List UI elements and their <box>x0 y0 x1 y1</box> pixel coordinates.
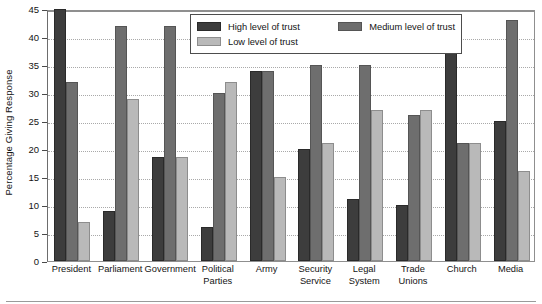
bar <box>396 205 408 261</box>
x-axis-label: Media <box>486 264 535 276</box>
legend-label-medium: Medium level of trust <box>369 22 455 32</box>
x-axis-label-line: System <box>340 276 389 288</box>
x-axis-label: Army <box>242 264 291 276</box>
y-tick-label: 45 <box>28 5 39 15</box>
legend-item-high: High level of trust <box>197 19 338 34</box>
bar <box>54 9 66 261</box>
y-tick-label: 5 <box>34 229 39 239</box>
bar <box>250 71 262 261</box>
y-tick-label: 25 <box>28 117 39 127</box>
x-axis-label-line: Parliament <box>96 264 145 276</box>
legend-item-low: Low level of trust <box>197 34 344 49</box>
x-axis-label: PoliticalParties <box>193 264 242 287</box>
bar <box>213 93 225 261</box>
y-tick-label: 30 <box>28 89 39 99</box>
bar <box>457 143 469 261</box>
y-tick-label: 35 <box>28 61 39 71</box>
legend: High level of trust Medium level of trus… <box>190 14 462 54</box>
bar <box>225 82 237 261</box>
bar <box>322 143 334 261</box>
x-axis-label-line: Government <box>145 264 194 276</box>
bar <box>469 143 481 261</box>
bar <box>66 82 78 261</box>
bar <box>420 110 432 261</box>
x-axis-label: Parliament <box>96 264 145 276</box>
y-tick-label: 10 <box>28 201 39 211</box>
bar <box>201 227 213 261</box>
x-axis-labels: PresidentParliamentGovernmentPoliticalPa… <box>47 264 535 304</box>
y-tick-label: 15 <box>28 173 39 183</box>
x-axis-label: Government <box>145 264 194 276</box>
bottom-rule <box>6 301 536 302</box>
x-axis-label-line: Political <box>193 264 242 276</box>
y-tick-label: 20 <box>28 145 39 155</box>
x-axis-label: President <box>47 264 96 276</box>
bar <box>310 65 322 261</box>
bar <box>176 157 188 261</box>
bar <box>494 121 506 261</box>
x-axis-label-line: President <box>47 264 96 276</box>
bar <box>347 199 359 261</box>
legend-label-low: Low level of trust <box>228 37 298 47</box>
y-tick-label: 0 <box>34 257 39 267</box>
x-axis-label-line: Church <box>437 264 486 276</box>
bar <box>78 222 90 261</box>
bar <box>164 26 176 261</box>
bar-group <box>48 11 97 261</box>
x-axis-label-line: Service <box>291 276 340 288</box>
bar <box>518 171 530 261</box>
bar <box>298 149 310 261</box>
bar <box>152 157 164 261</box>
bar <box>115 26 127 261</box>
bar-group <box>487 11 536 261</box>
bar <box>103 211 115 261</box>
legend-item-medium: Medium level of trust <box>338 19 455 34</box>
bar <box>274 177 286 261</box>
bar-chart: Percentage Giving Response 0510152025303… <box>0 0 542 304</box>
legend-label-high: High level of trust <box>228 22 300 32</box>
y-tick-mark-icon <box>42 262 47 263</box>
bar <box>445 48 457 261</box>
legend-swatch-low-icon <box>197 37 221 46</box>
x-axis-label: SecurityService <box>291 264 340 287</box>
bar-group <box>146 11 195 261</box>
y-axis-ticks: 051015202530354045 <box>0 10 47 262</box>
bar <box>359 65 371 261</box>
legend-row: High level of trust Medium level of trus… <box>197 19 455 34</box>
x-axis-label: Church <box>437 264 486 276</box>
bar-group <box>97 11 146 261</box>
legend-swatch-medium-icon <box>338 22 362 31</box>
bar <box>506 20 518 261</box>
x-axis-label: TradeUnions <box>389 264 438 287</box>
bar <box>371 110 383 261</box>
x-axis-label-line: Media <box>486 264 535 276</box>
legend-swatch-high-icon <box>197 22 221 31</box>
x-axis-label-line: Legal <box>340 264 389 276</box>
legend-row: Low level of trust <box>197 34 455 49</box>
bar <box>262 71 274 261</box>
y-tick-label: 40 <box>28 33 39 43</box>
x-axis-label-line: Security <box>291 264 340 276</box>
x-axis-label-line: Parties <box>193 276 242 288</box>
bar <box>127 99 139 261</box>
x-axis-label-line: Unions <box>389 276 438 288</box>
x-axis-label-line: Army <box>242 264 291 276</box>
bar <box>408 115 420 261</box>
x-axis-label: LegalSystem <box>340 264 389 287</box>
x-axis-label-line: Trade <box>389 264 438 276</box>
